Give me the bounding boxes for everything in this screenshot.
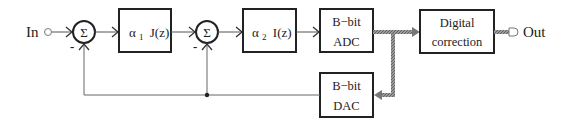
transfer-function: J(z) bbox=[150, 25, 170, 40]
dac-bits-label: B−bit bbox=[332, 79, 361, 93]
transfer-function: I(z) bbox=[273, 25, 292, 40]
correction-label: correction bbox=[432, 35, 483, 49]
input-port-icon bbox=[45, 29, 52, 36]
wire-alpha2-to-adc bbox=[296, 27, 319, 37]
output-port-icon bbox=[509, 28, 518, 36]
alpha-symbol: α bbox=[129, 25, 136, 40]
sigma-icon: Σ bbox=[80, 25, 88, 40]
dac-label: DAC bbox=[333, 99, 359, 113]
digital-bus bbox=[373, 27, 420, 100]
input-label: In bbox=[26, 24, 39, 40]
output-wire bbox=[494, 28, 518, 36]
sigma-icon: Σ bbox=[203, 25, 211, 40]
wire-sum1-to-alpha1 bbox=[95, 27, 118, 37]
subscript: 2 bbox=[262, 32, 267, 42]
block-alpha2-iz: α 2 I(z) bbox=[243, 9, 296, 52]
wire-in-to-sum1 bbox=[52, 27, 72, 37]
wire-alpha1-to-sum2 bbox=[171, 27, 195, 37]
block-adc: B−bit ADC bbox=[320, 9, 373, 52]
digital-label: Digital bbox=[440, 16, 475, 30]
output-label: Out bbox=[523, 24, 546, 40]
summing-junction-2: Σ - bbox=[193, 21, 218, 54]
summing-junction-1: Σ - bbox=[70, 21, 95, 54]
block-dac: B−bit DAC bbox=[320, 73, 373, 117]
alpha-symbol: α bbox=[252, 25, 259, 40]
wire-sum2-to-alpha2 bbox=[218, 27, 242, 37]
minus-sign: - bbox=[70, 39, 74, 54]
block-alpha1-jz: α 1 J(z) bbox=[119, 9, 171, 52]
minus-sign: - bbox=[193, 39, 197, 54]
subscript: 1 bbox=[139, 32, 144, 42]
junction-dot bbox=[205, 93, 209, 97]
block-diagram: In Σ - α 1 J(z) Σ - bbox=[0, 0, 573, 129]
adc-label: ADC bbox=[333, 35, 359, 49]
block-digital-correction: Digital correction bbox=[420, 10, 494, 53]
adc-bits-label: B−bit bbox=[332, 15, 361, 29]
